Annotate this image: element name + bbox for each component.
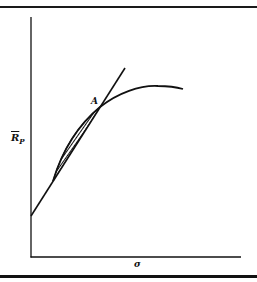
point-a-label: A xyxy=(91,96,98,106)
y-axis-label: RP xyxy=(11,132,25,146)
x-axis-label: σ xyxy=(134,259,141,269)
y-axis-label-subscript: P xyxy=(19,137,24,146)
frontier-curve xyxy=(53,86,183,181)
tangent-line xyxy=(31,68,125,216)
bottom-border-rule xyxy=(0,275,257,278)
diagram-canvas xyxy=(0,0,257,282)
